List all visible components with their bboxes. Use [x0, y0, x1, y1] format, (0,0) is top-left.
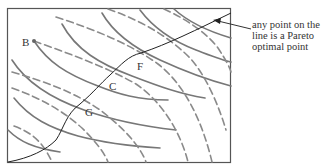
pareto-annotation: any point on the line is a Pareto optima…: [252, 19, 324, 52]
dashed-indifference-curves: [12, 9, 231, 162]
solid-indifference-curves: [8, 9, 231, 152]
point-label-g: G: [85, 107, 93, 118]
edgeworth-box-frame: [8, 9, 231, 163]
point-label-f: F: [137, 61, 143, 72]
annotation-line-3: optimal point: [252, 41, 324, 52]
annotation-line-1: any point on the: [252, 19, 324, 30]
point-label-b: B: [22, 37, 29, 48]
annotation-arrow: [213, 18, 251, 29]
point-b-marker: [32, 39, 36, 43]
point-label-c: C: [109, 81, 116, 92]
annotation-line-2: line is a Pareto: [252, 30, 324, 41]
